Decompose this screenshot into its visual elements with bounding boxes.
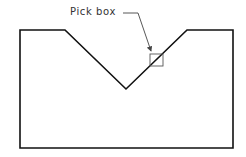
leader-line xyxy=(123,13,151,51)
diagram-canvas: Pick box xyxy=(0,0,246,157)
pick-box-label: Pick box xyxy=(70,6,116,17)
v-notch-outline xyxy=(20,30,233,148)
diagram-drawing xyxy=(0,0,246,157)
